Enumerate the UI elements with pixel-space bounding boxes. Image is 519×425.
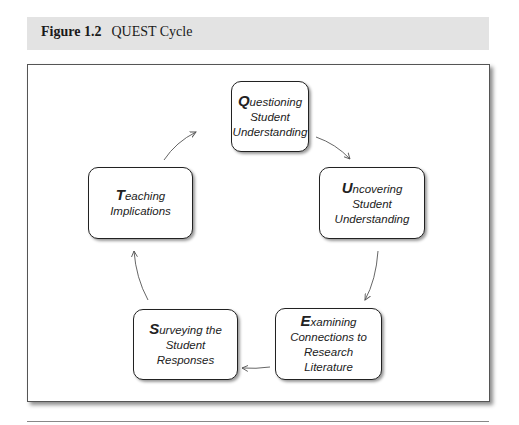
node-word: xamining	[310, 316, 356, 328]
node-line: Responses	[157, 353, 215, 368]
node-initial: U	[342, 179, 353, 196]
node-initial: E	[300, 312, 310, 329]
node-word: ncovering	[352, 183, 402, 195]
node-questioning: Questioning Student Understanding	[231, 81, 309, 152]
node-line: Literature	[304, 360, 353, 375]
node-line: Student	[250, 110, 290, 125]
node-line: Student	[352, 197, 392, 212]
node-initial: T	[116, 186, 125, 203]
node-initial: S	[149, 320, 159, 337]
node-line: Implications	[110, 204, 171, 219]
node-line: Understanding	[233, 125, 308, 140]
bottom-rule	[27, 421, 489, 422]
figure-title: QUEST Cycle	[111, 24, 192, 39]
node-word: urveying the	[159, 324, 222, 336]
node-surveying: Surveying the Student Responses	[133, 309, 238, 380]
node-word: eaching	[125, 190, 165, 202]
figure-caption: Figure 1.2QUEST Cycle	[41, 24, 192, 40]
node-word: uestioning	[250, 96, 302, 108]
node-teaching: Teaching Implications	[88, 167, 193, 239]
node-uncovering: Uncovering Student Understanding	[319, 167, 425, 239]
node-line: Understanding	[335, 212, 410, 227]
node-line: Student	[166, 338, 206, 353]
node-examining: Examining Connections to Research Litera…	[275, 308, 382, 380]
node-line: Research	[304, 345, 353, 360]
node-line: Connections to	[290, 330, 367, 345]
node-initial: Q	[238, 92, 250, 109]
figure-number: Figure 1.2	[41, 24, 101, 39]
